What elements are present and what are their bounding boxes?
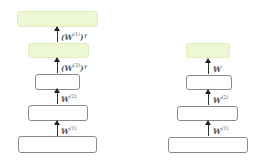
weight-label-w2: W(2) [213,93,229,105]
arrow-up-icon [57,30,58,42]
weight-label-w1: W(1) [61,124,77,136]
arrow-up-icon [208,124,209,136]
hidden-layer-1 [177,106,238,121]
weight-label-w1-transpose: (W(1))ᵀ [61,30,87,42]
arrow-up-icon [208,93,209,105]
hidden-layer-1 [28,105,88,121]
reconstruction-layer-top [17,11,98,27]
arrow-up-icon [57,124,58,136]
arrow-up-icon [208,62,209,74]
input-layer [18,136,97,153]
hidden-layer-2 [186,75,232,90]
output-layer [186,43,230,58]
weight-label-w2: W(2) [61,92,77,104]
arrow-up-icon [57,92,58,104]
weight-label-w2-transpose: (W(2))ᵀ [61,61,87,73]
weight-label-w: W [213,62,221,74]
arrow-up-icon [57,61,58,73]
input-layer [168,137,248,153]
weight-label-w1: W(1) [213,124,229,136]
reconstruction-layer-mid [28,43,89,58]
